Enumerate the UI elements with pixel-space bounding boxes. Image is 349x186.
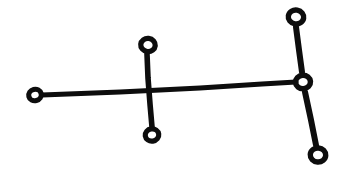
figure-canvas: Node-link line figure: [0, 0, 349, 186]
node-link-diagram: [0, 0, 349, 186]
